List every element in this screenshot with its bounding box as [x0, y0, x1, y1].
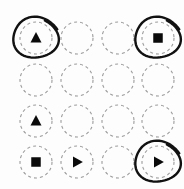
square-icon[interactable]: [31, 157, 41, 167]
cell-circle[interactable]: [142, 64, 174, 96]
play-right-icon[interactable]: [154, 157, 164, 168]
cell-circle[interactable]: [20, 64, 52, 96]
annotated-shape-grid: [0, 0, 184, 189]
grid-canvas: [0, 0, 184, 189]
triangle-up-icon[interactable]: [31, 32, 42, 42]
cell-circle[interactable]: [61, 64, 93, 96]
cell-circle[interactable]: [61, 105, 93, 137]
cell-circles-layer: [20, 22, 174, 178]
triangle-up-icon[interactable]: [31, 115, 42, 125]
cell-circle[interactable]: [102, 64, 134, 96]
cell-circle[interactable]: [102, 105, 134, 137]
play-right-icon[interactable]: [73, 157, 83, 168]
cell-circle[interactable]: [142, 105, 174, 137]
cell-circle[interactable]: [61, 22, 93, 54]
square-icon[interactable]: [153, 33, 163, 43]
cell-circle[interactable]: [102, 146, 134, 178]
cell-circle[interactable]: [102, 22, 134, 54]
